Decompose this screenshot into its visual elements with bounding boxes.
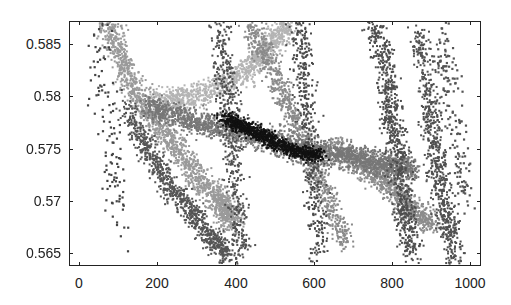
y-tick-label: 0.575	[26, 141, 61, 157]
y-tick-label: 0.58	[34, 88, 61, 104]
x-tick-label: 600	[302, 275, 325, 291]
plot-frame	[69, 21, 481, 266]
scatter-plot-figure: 0.585 0.58 0.575 0.57 0.565 0 200 400 60…	[0, 0, 511, 305]
x-tick-label: 1000	[454, 275, 485, 291]
y-tick-label: 0.565	[26, 245, 61, 261]
y-tick-label: 0.57	[34, 193, 61, 209]
x-tick-label: 400	[224, 275, 247, 291]
y-tick-label: 0.585	[26, 36, 61, 52]
x-tick-label: 800	[380, 275, 403, 291]
x-tick-label: 200	[145, 275, 168, 291]
x-tick-label: 0	[75, 275, 83, 291]
